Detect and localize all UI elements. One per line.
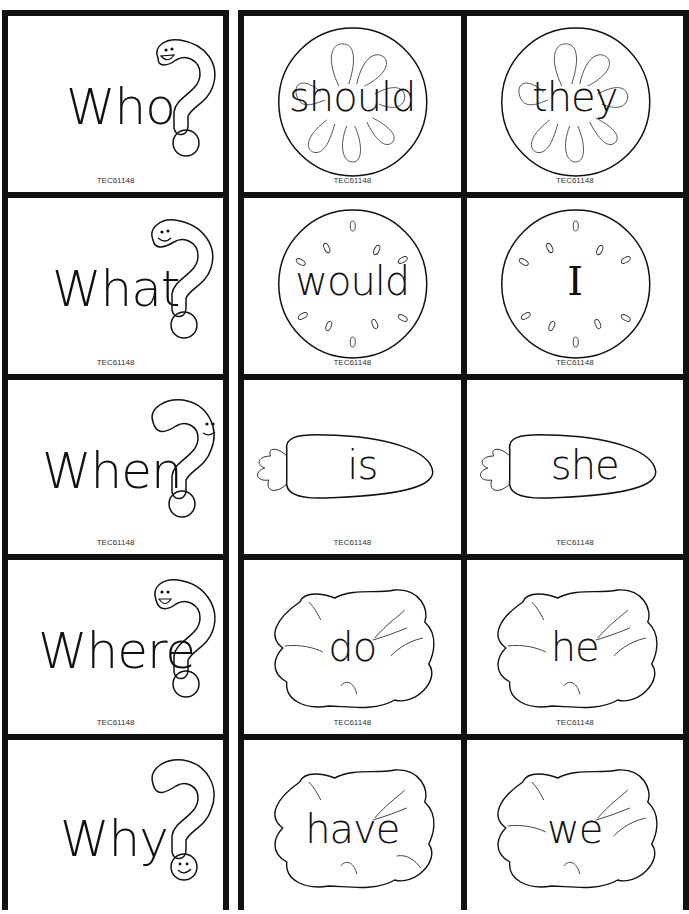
product-code: TEC61148: [8, 538, 223, 547]
question-word: Why: [60, 810, 168, 868]
sight-word: do: [244, 624, 461, 670]
product-code: TEC61148: [244, 718, 461, 727]
product-code: TEC61148: [8, 358, 223, 367]
question-word: Who: [66, 78, 175, 136]
card-where: Where TEC61148: [8, 560, 223, 734]
card-have: have: [244, 740, 461, 914]
product-code: TEC61148: [467, 538, 684, 547]
card-he: he TEC61148: [467, 560, 684, 734]
product-code: TEC61148: [244, 538, 461, 547]
question-word: What: [52, 260, 179, 318]
sight-word: have: [244, 806, 461, 852]
card-who: Who TEC61148: [8, 16, 223, 192]
card-would: would TEC61148: [244, 198, 461, 374]
card-do: do TEC61148: [244, 560, 461, 734]
question-word-column: Who TEC61148 What TEC61148 When TEC61148: [2, 10, 229, 910]
card-when: When TEC61148: [8, 380, 223, 554]
word-card-grid: should TEC61148 they TEC61148: [238, 10, 689, 910]
product-code: TEC61148: [8, 176, 223, 185]
product-code: TEC61148: [8, 718, 223, 727]
sight-word: would: [244, 258, 461, 304]
sight-word: I: [467, 258, 684, 304]
sight-word: they: [467, 74, 684, 120]
sight-word: we: [467, 806, 684, 852]
product-code: TEC61148: [467, 358, 684, 367]
card-we: we: [467, 740, 684, 914]
card-she: she TEC61148: [467, 380, 684, 554]
product-code: TEC61148: [467, 176, 684, 185]
sight-word: he: [467, 624, 684, 670]
card-is: is TEC61148: [244, 380, 461, 554]
sight-word: she: [467, 442, 684, 488]
product-code: TEC61148: [467, 718, 684, 727]
sight-word: is: [244, 442, 461, 488]
sight-word: should: [244, 74, 461, 120]
card-what: What TEC61148: [8, 198, 223, 374]
product-code: TEC61148: [244, 176, 461, 185]
card-should: should TEC61148: [244, 16, 461, 192]
question-word: When: [42, 442, 182, 500]
card-they: they TEC61148: [467, 16, 684, 192]
product-code: TEC61148: [244, 358, 461, 367]
card-why: Why: [8, 740, 223, 914]
card-i: I TEC61148: [467, 198, 684, 374]
question-word: Where: [38, 622, 195, 680]
